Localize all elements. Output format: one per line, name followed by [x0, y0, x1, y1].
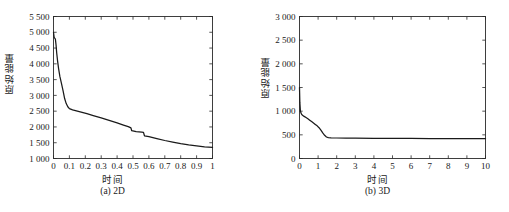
x-axis-tick-labels-3d: 012345678910	[297, 161, 490, 170]
y-tick-label: 3 500	[29, 75, 50, 85]
x-tick-label: 0.1	[64, 161, 75, 170]
y-tick-label: 5 500	[29, 12, 50, 22]
chart-panel-3d: 012345678910 05001 0001 5002 0002 5003 0…	[255, 0, 509, 212]
y-axis-title-3d: 原始能量	[259, 56, 273, 98]
y-axis-tick-labels-2d: 1 0001 5002 0002 5003 0003 5004 0004 500…	[29, 12, 50, 164]
y-tick-label: 4 000	[29, 59, 50, 69]
x-tick-label: 1	[210, 161, 215, 170]
panel-caption-3d: (b) 3D	[255, 186, 500, 196]
y-axis-ticks-right-3d	[482, 17, 485, 159]
x-axis-ticks-2d	[54, 155, 213, 158]
x-tick-label: 2	[334, 161, 339, 170]
x-tick-label: 8	[446, 161, 451, 170]
chart-plot-3d: 012345678910 05001 0001 5002 0002 5003 0…	[255, 0, 509, 170]
chart-plot-2d: 00.10.20.30.40.50.60.70.80.91 1 0001 500…	[0, 0, 254, 170]
x-axis-title-2d: 时间	[0, 172, 225, 186]
y-tick-label: 4 500	[29, 43, 50, 53]
y-tick-label: 1 000	[29, 154, 50, 164]
x-tick-label: 5	[390, 161, 395, 170]
x-axis-ticks-3d	[300, 155, 486, 158]
y-tick-label: 500	[282, 130, 296, 140]
y-tick-label: 1 500	[275, 83, 296, 93]
x-axis-tick-labels-2d: 00.10.20.30.40.50.60.70.80.91	[51, 161, 215, 170]
axis-frame-2d	[54, 17, 213, 159]
x-tick-label: 0.5	[127, 161, 139, 170]
energy-curve-3d	[300, 88, 486, 139]
x-tick-label: 0.8	[175, 161, 187, 170]
y-tick-label: 3 000	[275, 12, 296, 22]
energy-curve-2d	[54, 32, 213, 147]
y-axis-title-2d: 原始能量	[3, 52, 17, 94]
y-tick-label: 5 000	[29, 27, 50, 37]
x-tick-label: 0.7	[159, 161, 171, 170]
y-tick-label: 2 500	[275, 35, 296, 45]
y-axis-ticks-right-2d	[209, 17, 212, 159]
y-tick-label: 2 000	[275, 59, 296, 69]
x-tick-label: 3	[353, 161, 358, 170]
x-tick-label: 0.2	[80, 161, 91, 170]
y-tick-label: 3 000	[29, 91, 50, 101]
x-tick-label: 6	[409, 161, 414, 170]
y-tick-label: 0	[291, 154, 296, 164]
chart-panel-2d: 00.10.20.30.40.50.60.70.80.91 1 0001 500…	[0, 0, 254, 212]
x-axis-ticks-top-2d	[54, 17, 213, 20]
x-tick-label: 0	[297, 161, 302, 170]
y-tick-label: 1 000	[275, 106, 296, 116]
y-tick-label: 1 500	[29, 138, 50, 148]
y-tick-label: 2 500	[29, 106, 50, 116]
x-tick-label: 0.9	[191, 161, 203, 170]
x-axis-title-3d: 时间	[255, 172, 500, 186]
panel-caption-2d: (a) 2D	[0, 186, 225, 196]
y-axis-tick-labels-3d: 05001 0001 5002 0002 5003 000	[275, 12, 296, 164]
x-tick-label: 1	[316, 161, 321, 170]
y-tick-label: 2 000	[29, 122, 50, 132]
x-tick-label: 9	[465, 161, 470, 170]
x-tick-label: 0.4	[111, 161, 123, 170]
x-axis-ticks-top-3d	[300, 17, 486, 20]
x-tick-label: 0	[51, 161, 56, 170]
x-tick-label: 7	[427, 161, 432, 170]
x-tick-label: 0.3	[96, 161, 108, 170]
figure-container: 00.10.20.30.40.50.60.70.80.91 1 0001 500…	[0, 0, 509, 212]
x-tick-label: 10	[481, 161, 491, 170]
x-tick-label: 4	[372, 161, 377, 170]
x-tick-label: 0.6	[143, 161, 155, 170]
